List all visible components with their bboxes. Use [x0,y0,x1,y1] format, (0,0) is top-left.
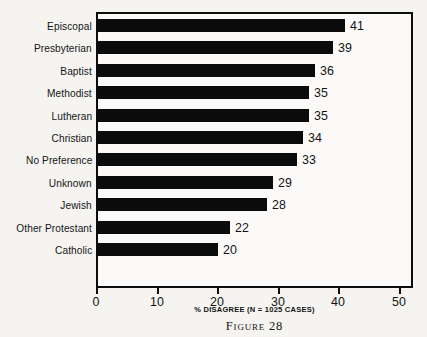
category-label: No Preference [26,149,92,171]
bar-value-label: 35 [314,106,328,125]
bar-value-label: 33 [302,150,316,169]
bar [97,64,315,77]
x-axis-caption: % DISAGREE (N = 1025 CASES) [96,305,413,314]
bar-container [97,64,315,77]
bar-value-label: 28 [272,195,286,214]
bar-rows: Episcopal41Presbyterian39Baptist36Method… [0,12,427,288]
bar [97,131,303,144]
bar-row: Jewish28 [0,194,427,216]
bar [97,153,297,166]
category-label: Episcopal [47,15,92,37]
figure-caption: Figure 28 [96,319,413,334]
bar-value-label: 22 [235,218,249,237]
bar-value-label: 39 [338,38,352,57]
bar-value-label: 36 [320,61,334,80]
bar-container [97,221,230,234]
bar-container [97,176,273,189]
category-label: Unknown [49,172,92,194]
bar-container [97,198,267,211]
bar-row: Baptist36 [0,60,427,82]
bar-row: Lutheran35 [0,105,427,127]
bar-row: Other Protestant22 [0,217,427,239]
bar-row: Catholic20 [0,239,427,261]
bar [97,198,267,211]
bar [97,86,309,99]
category-label: Presbyterian [34,37,92,59]
category-label: Lutheran [51,105,92,127]
bar-container [97,86,309,99]
bar [97,176,273,189]
bar [97,19,345,32]
bar [97,109,309,122]
bar-row: No Preference33 [0,149,427,171]
bar-container [97,153,297,166]
category-label: Christian [51,127,92,149]
bar [97,243,218,256]
bar-row: Presbyterian39 [0,37,427,59]
bar-row: Christian34 [0,127,427,149]
category-label: Catholic [55,239,92,261]
bar-row: Unknown29 [0,172,427,194]
bar-value-label: 35 [314,83,328,102]
category-label: Jewish [61,194,92,216]
bar-value-label: 41 [350,16,364,35]
bar-container [97,109,309,122]
bar-value-label: 29 [278,173,292,192]
bar-value-label: 34 [308,128,322,147]
bar-value-label: 20 [223,240,237,259]
bar [97,221,230,234]
bar-row: Episcopal41 [0,15,427,37]
bar-container [97,19,345,32]
bar-container [97,131,303,144]
category-label: Other Protestant [16,217,92,239]
bar-container [97,41,333,54]
bar-container [97,243,218,256]
bar-row: Methodist35 [0,82,427,104]
figure-28-bar-chart: Episcopal41Presbyterian39Baptist36Method… [0,0,427,337]
bar [97,41,333,54]
category-label: Methodist [47,82,92,104]
category-label: Baptist [60,60,92,82]
